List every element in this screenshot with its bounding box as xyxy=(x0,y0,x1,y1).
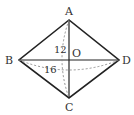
ac-length-label: 12 xyxy=(54,44,67,55)
center-label-o: O xyxy=(72,47,81,60)
bd-length-label: 16 xyxy=(44,64,57,75)
vertex-label-d: D xyxy=(122,54,131,67)
vertex-label-c: C xyxy=(65,101,73,114)
rhombus-diagram: A B C D O 12 16 xyxy=(0,0,134,115)
ac-measure-arc xyxy=(62,20,69,98)
vertex-label-a: A xyxy=(64,5,74,18)
vertex-label-b: B xyxy=(5,54,13,67)
